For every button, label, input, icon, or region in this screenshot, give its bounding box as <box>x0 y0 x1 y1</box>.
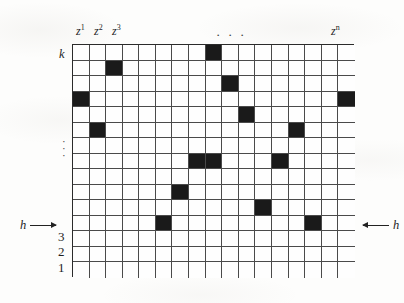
grid-cell-empty[interactable] <box>305 107 322 123</box>
grid-cell-empty[interactable] <box>156 154 173 170</box>
grid-cell-empty[interactable] <box>322 216 339 232</box>
grid-cell-empty[interactable] <box>322 200 339 216</box>
grid-cell-empty[interactable] <box>189 200 206 216</box>
grid-cell-empty[interactable] <box>156 92 173 108</box>
grid-cell-empty[interactable] <box>156 76 173 92</box>
grid-cell-filled[interactable] <box>90 123 107 139</box>
grid-cell-filled[interactable] <box>222 76 239 92</box>
grid-cell-empty[interactable] <box>139 154 156 170</box>
grid-cell-filled[interactable] <box>156 216 173 232</box>
grid-cell-empty[interactable] <box>139 61 156 77</box>
grid-cell-empty[interactable] <box>189 107 206 123</box>
grid-cell-empty[interactable] <box>239 200 256 216</box>
grid-cell-empty[interactable] <box>206 169 223 185</box>
grid-cell-empty[interactable] <box>222 185 239 201</box>
grid-cell-empty[interactable] <box>338 262 355 278</box>
grid-cell-empty[interactable] <box>90 61 107 77</box>
grid-cell-empty[interactable] <box>156 45 173 61</box>
grid-cell-empty[interactable] <box>123 92 140 108</box>
grid-cell-empty[interactable] <box>73 247 90 263</box>
grid-cell-empty[interactable] <box>106 262 123 278</box>
grid-cell-empty[interactable] <box>338 154 355 170</box>
grid-cell-empty[interactable] <box>255 76 272 92</box>
grid-cell-empty[interactable] <box>338 107 355 123</box>
grid-cell-empty[interactable] <box>322 169 339 185</box>
grid-cell-empty[interactable] <box>239 262 256 278</box>
grid-cell-empty[interactable] <box>73 262 90 278</box>
grid-cell-empty[interactable] <box>322 92 339 108</box>
grid-cell-empty[interactable] <box>239 45 256 61</box>
grid-cell-empty[interactable] <box>239 185 256 201</box>
grid-cell-empty[interactable] <box>255 138 272 154</box>
grid-cell-empty[interactable] <box>255 107 272 123</box>
grid-cell-empty[interactable] <box>106 107 123 123</box>
grid-cell-empty[interactable] <box>272 45 289 61</box>
grid-cell-empty[interactable] <box>222 169 239 185</box>
grid-cell-empty[interactable] <box>255 231 272 247</box>
grid-cell-empty[interactable] <box>272 107 289 123</box>
grid-cell-empty[interactable] <box>73 200 90 216</box>
grid-cell-empty[interactable] <box>222 231 239 247</box>
grid-cell-filled[interactable] <box>305 216 322 232</box>
grid-cell-empty[interactable] <box>322 107 339 123</box>
grid-cell-empty[interactable] <box>189 185 206 201</box>
grid-cell-empty[interactable] <box>106 123 123 139</box>
grid-cell-empty[interactable] <box>206 61 223 77</box>
grid-cell-empty[interactable] <box>172 216 189 232</box>
grid-cell-empty[interactable] <box>172 200 189 216</box>
grid-cell-empty[interactable] <box>189 138 206 154</box>
grid-cell-empty[interactable] <box>338 123 355 139</box>
grid-cell-empty[interactable] <box>73 169 90 185</box>
grid-cell-empty[interactable] <box>239 123 256 139</box>
grid-cell-empty[interactable] <box>289 92 306 108</box>
grid-cell-empty[interactable] <box>289 216 306 232</box>
grid-cell-empty[interactable] <box>289 138 306 154</box>
grid-cell-empty[interactable] <box>272 169 289 185</box>
grid-cell-empty[interactable] <box>73 107 90 123</box>
grid-cell-empty[interactable] <box>106 247 123 263</box>
grid-cell-empty[interactable] <box>322 247 339 263</box>
grid-cell-empty[interactable] <box>222 262 239 278</box>
grid-cell-empty[interactable] <box>272 138 289 154</box>
grid-cell-empty[interactable] <box>106 92 123 108</box>
grid-cell-empty[interactable] <box>206 107 223 123</box>
grid-cell-empty[interactable] <box>156 185 173 201</box>
grid-cell-empty[interactable] <box>239 154 256 170</box>
grid-cell-empty[interactable] <box>239 76 256 92</box>
grid-cell-empty[interactable] <box>106 76 123 92</box>
grid-cell-empty[interactable] <box>139 138 156 154</box>
grid-cell-empty[interactable] <box>222 107 239 123</box>
grid-cell-empty[interactable] <box>206 216 223 232</box>
grid-cell-empty[interactable] <box>139 169 156 185</box>
grid-cell-empty[interactable] <box>322 185 339 201</box>
grid-cell-filled[interactable] <box>272 154 289 170</box>
grid-cell-empty[interactable] <box>322 45 339 61</box>
grid-cell-empty[interactable] <box>139 123 156 139</box>
grid-cell-empty[interactable] <box>139 231 156 247</box>
grid-cell-filled[interactable] <box>172 185 189 201</box>
grid-cell-empty[interactable] <box>90 231 107 247</box>
grid-cell-empty[interactable] <box>90 169 107 185</box>
grid-cell-filled[interactable] <box>338 92 355 108</box>
grid-cell-empty[interactable] <box>139 247 156 263</box>
grid-cell-empty[interactable] <box>305 76 322 92</box>
grid-cell-empty[interactable] <box>206 231 223 247</box>
grid-cell-empty[interactable] <box>123 45 140 61</box>
grid-cell-empty[interactable] <box>222 154 239 170</box>
grid-cell-empty[interactable] <box>322 76 339 92</box>
grid-cell-empty[interactable] <box>90 200 107 216</box>
grid-cell-empty[interactable] <box>73 185 90 201</box>
grid-cell-empty[interactable] <box>90 216 107 232</box>
grid-cell-empty[interactable] <box>289 200 306 216</box>
grid-cell-empty[interactable] <box>338 185 355 201</box>
grid-cell-empty[interactable] <box>239 216 256 232</box>
grid-cell-empty[interactable] <box>172 247 189 263</box>
grid-cell-empty[interactable] <box>239 231 256 247</box>
grid-cell-empty[interactable] <box>189 61 206 77</box>
grid-cell-empty[interactable] <box>90 107 107 123</box>
grid-cell-empty[interactable] <box>206 185 223 201</box>
grid-cell-empty[interactable] <box>106 138 123 154</box>
grid-cell-empty[interactable] <box>289 247 306 263</box>
grid-cell-empty[interactable] <box>272 216 289 232</box>
grid-cell-empty[interactable] <box>156 138 173 154</box>
